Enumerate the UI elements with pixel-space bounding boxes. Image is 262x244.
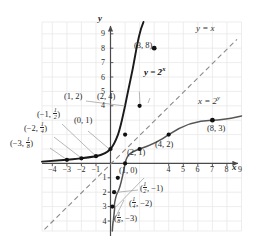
point-exp-neg3	[65, 158, 69, 162]
y-tick--2: 2	[103, 189, 107, 197]
label-prefix: (−1,	[37, 109, 53, 119]
point-exp-1	[123, 133, 127, 137]
point-label-neg3-eighth: (−3, 18)	[10, 136, 33, 150]
point-label-quarter-neg2: (14, −2)	[129, 196, 152, 210]
point-label-2-1: (2, 1)	[127, 148, 145, 157]
point-log-half-neg1	[116, 176, 120, 180]
y-tick-4: 4	[101, 102, 105, 110]
y-tick--4: 4	[103, 218, 107, 226]
y-tick-8: 8	[101, 45, 105, 53]
x-tick--3: −3	[63, 166, 72, 174]
point-label-1-2: (1, 2)	[64, 92, 82, 101]
point-label-half-neg1: (12, −1)	[140, 181, 163, 195]
point-exp-2	[138, 104, 142, 108]
x-tick-8: 8	[225, 166, 229, 174]
exponential-equation-label: y = 2x	[144, 66, 165, 77]
point-label-neg2-quarter: (−2, 14)	[24, 121, 47, 135]
logarithmic-equation-label: x = 2y	[198, 95, 220, 106]
point-exp-neg1	[94, 154, 98, 158]
point-label-3-8: (3, 8)	[134, 41, 152, 50]
label-prefix: (−2,	[24, 123, 40, 133]
x-tick-9: 9	[238, 166, 242, 174]
x-axis-label: x	[232, 163, 237, 172]
logarithmic-equation-base: x = 2	[198, 96, 217, 106]
exponential-equation-base: y = 2	[144, 67, 162, 77]
point-log-eighth-neg3	[110, 205, 114, 209]
label-suffix: )	[44, 123, 47, 133]
exponential-equation-exponent: x	[162, 65, 165, 72]
point-label-0-1: (0, 1)	[74, 116, 92, 125]
point-label-eighth-neg3: (18, −3)	[114, 211, 137, 225]
point-exp-3	[152, 46, 157, 51]
point-label-4-2: (4, 2)	[155, 140, 173, 149]
x-tick-7: 7	[210, 166, 214, 174]
point-exp-0	[108, 147, 112, 151]
x-tick--4: −4	[48, 166, 57, 174]
x-tick--2: −2	[77, 166, 86, 174]
x-tick-5: 5	[181, 166, 185, 174]
label-suffix: )	[30, 138, 33, 148]
y-tick-9: 9	[101, 30, 105, 38]
label-suffix: , −1)	[147, 183, 163, 193]
x-tick--1: −1	[92, 166, 101, 174]
point-log-8-3	[210, 118, 215, 123]
label-suffix: , −3)	[121, 213, 137, 223]
y-tick-6: 6	[101, 74, 105, 82]
exponential-log-graph-figure: y x −4 −3 −2 −1 4 5 6 7 8 9 9 8 7 6 5 4 …	[0, 0, 262, 244]
y-tick-7: 7	[101, 59, 105, 67]
point-label-8-3: (8, 3)	[207, 124, 225, 133]
point-log-4-2	[167, 133, 171, 137]
point-label-neg1-half: (−1, 12)	[37, 107, 60, 121]
point-log-quarter-neg2	[112, 190, 116, 194]
identity-equation-label: y = x	[196, 24, 215, 33]
point-exp-neg2	[79, 156, 83, 160]
logarithmic-equation-exponent: y	[217, 94, 220, 101]
x-tick-4: 4	[167, 166, 171, 174]
label-suffix: )	[57, 109, 60, 119]
y-tick--1: 1	[103, 174, 107, 182]
point-label-1-0: (1, 0)	[119, 166, 137, 175]
point-label-2-4: (2, 4)	[97, 92, 115, 101]
y-axis-label: y	[98, 14, 102, 23]
y-tick--3: 3	[103, 203, 107, 211]
x-tick-6: 6	[196, 166, 200, 174]
label-prefix: (−3,	[10, 138, 26, 148]
label-suffix: , −2)	[136, 198, 152, 208]
